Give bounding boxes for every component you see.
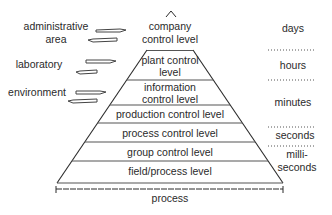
time-hours: hours [280,59,306,71]
time-milliseconds-line1: milli- [286,148,308,160]
level-company-line2: control level [142,33,198,45]
input-administrative-line1: administrative [24,20,89,32]
input-laboratory: laboratory [16,58,63,70]
time-milliseconds-line2: seconds [277,161,316,173]
level-plant-line2: level [159,66,181,78]
level-field-process: field/process level [128,165,211,177]
level-company-line1: company [149,20,192,32]
level-information-line2: control level [142,93,198,105]
time-days: days [282,22,304,34]
level-information-line1: information [144,81,196,93]
apex-caret-icon [166,11,176,17]
level-plant-line1: plant control [141,54,198,66]
level-process-control: process control level [122,127,218,139]
input-administrative-line2: area [45,33,66,45]
input-environment: environment [8,86,66,98]
laboratory-arrow-icon [76,60,116,74]
level-group-control: group control level [127,146,213,158]
automation-pyramid-diagram: company control level plant control leve… [0,0,332,215]
time-seconds: seconds [275,129,314,141]
input-arrows [68,29,126,103]
environment-arrow-icon [68,91,106,103]
time-minutes: minutes [275,96,312,108]
administrative-arrow-icon [88,29,126,42]
level-production: production control level [116,108,224,120]
base-process-label: process [152,192,189,204]
